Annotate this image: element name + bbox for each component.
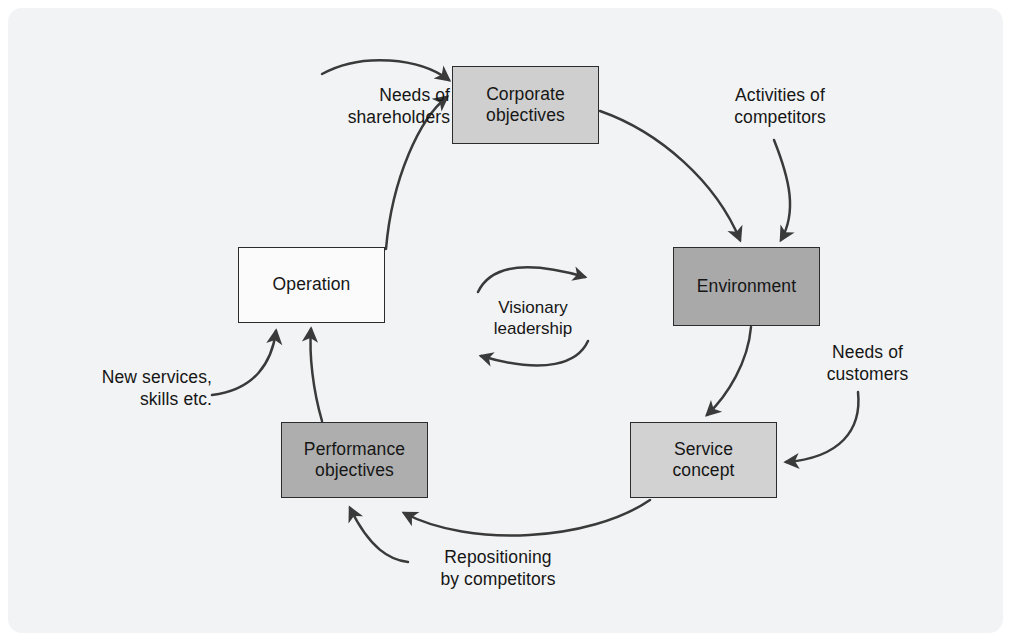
diagram-root: Corporate objectives Environment Service… bbox=[0, 0, 1013, 644]
node-operation[interactable]: Operation bbox=[238, 247, 385, 323]
node-service-concept[interactable]: Service concept bbox=[630, 422, 777, 498]
connector-customers-to-service-concept bbox=[786, 392, 858, 462]
connector-environment-to-service-concept bbox=[707, 327, 751, 415]
node-environment-label: Environment bbox=[697, 276, 796, 297]
connector-visionary-leadership-bottom-arc bbox=[481, 341, 588, 365]
node-service-concept-label: Service concept bbox=[673, 439, 735, 482]
node-operation-label: Operation bbox=[273, 274, 351, 295]
label-needs-of-shareholders: Needs of shareholders bbox=[260, 84, 450, 128]
node-performance-objectives-label: Performance objectives bbox=[304, 439, 405, 482]
connector-service-concept-to-performance-objectives bbox=[404, 500, 650, 535]
connector-corporate-objectives-to-environment bbox=[600, 111, 740, 240]
node-corporate-objectives[interactable]: Corporate objectives bbox=[452, 66, 599, 144]
connector-new-services-to-operation bbox=[212, 331, 276, 395]
label-new-services-skills: New services, skills etc. bbox=[60, 366, 212, 410]
connector-performance-objectives-to-operation bbox=[310, 329, 322, 421]
connector-shareholders-to-corporate-objectives bbox=[322, 60, 449, 80]
node-performance-objectives[interactable]: Performance objectives bbox=[281, 422, 428, 498]
connector-competitors-to-environment bbox=[774, 140, 790, 240]
label-repositioning-by-competitors: Repositioning by competitors bbox=[398, 546, 598, 590]
node-corporate-objectives-label: Corporate objectives bbox=[486, 84, 565, 127]
visionary-leadership-label: Visionary leadership bbox=[468, 297, 598, 340]
label-activities-of-competitors: Activities of competitors bbox=[700, 84, 860, 128]
connector-visionary-leadership-top-arc bbox=[478, 267, 585, 292]
label-needs-of-customers: Needs of customers bbox=[800, 341, 935, 385]
node-environment[interactable]: Environment bbox=[673, 247, 820, 326]
